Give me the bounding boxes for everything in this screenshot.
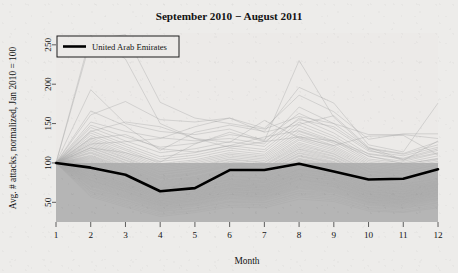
x-tick-label: 8 xyxy=(297,230,302,240)
x-tick-label: 10 xyxy=(364,230,374,240)
chart-figure: 50100150200250 123456789101112 September… xyxy=(0,0,458,273)
spaghetti-line-chart: 50100150200250 123456789101112 September… xyxy=(0,0,458,273)
x-axis-label: Month xyxy=(234,256,259,266)
y-tick-label: 200 xyxy=(43,77,53,91)
x-tick-label: 1 xyxy=(54,230,59,240)
x-tick-label: 4 xyxy=(158,230,163,240)
x-tick-label: 6 xyxy=(227,230,232,240)
x-tick-label: 12 xyxy=(433,230,443,240)
x-tick-label: 7 xyxy=(262,230,267,240)
legend-label-uae: United Arab Emirates xyxy=(92,42,168,52)
y-tick-label: 150 xyxy=(43,116,53,130)
legend-box: United Arab Emirates xyxy=(57,36,179,57)
y-axis-label: Avg. # attacks, normalized, Jan 2010 = 1… xyxy=(8,47,18,210)
y-tick-label: 50 xyxy=(43,197,53,207)
x-tick-label: 9 xyxy=(332,230,337,240)
x-tick-label: 3 xyxy=(123,230,128,240)
chart-title: September 2010 − August 2011 xyxy=(156,10,303,22)
x-tick-label: 5 xyxy=(193,230,198,240)
y-tick-label: 250 xyxy=(43,38,53,52)
x-tick-label: 2 xyxy=(88,230,93,240)
y-tick-label: 100 xyxy=(43,156,53,170)
x-tick-label: 11 xyxy=(399,230,408,240)
